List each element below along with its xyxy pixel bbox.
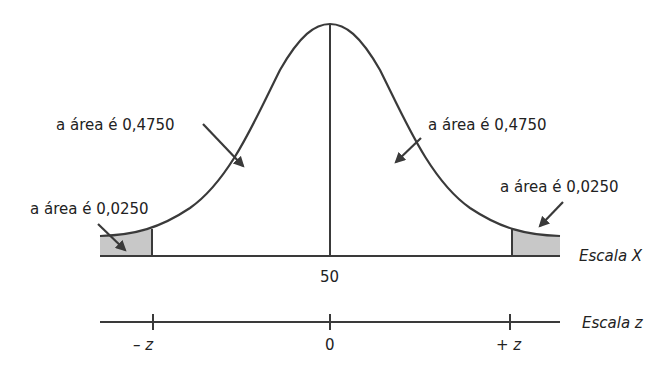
left-tail-area-label: a área é 0,0250 (30, 202, 149, 217)
right-tail-area-label: a área é 0,0250 (500, 180, 619, 195)
arrow-right-tail (540, 202, 563, 226)
left-center-area-label: a área é 0,4750 (56, 118, 175, 133)
z-neg-label: – z (133, 338, 153, 353)
arrow-left-center (203, 124, 243, 166)
right-center-area-label: a área é 0,4750 (428, 118, 547, 133)
z-scale-label: Escala z (582, 316, 643, 331)
x-mean-label: 50 (320, 270, 339, 285)
z-zero-label: 0 (325, 338, 335, 353)
z-pos-label: + z (496, 338, 521, 353)
x-scale-label: Escala X (579, 249, 642, 264)
arrow-right-center (396, 138, 421, 162)
